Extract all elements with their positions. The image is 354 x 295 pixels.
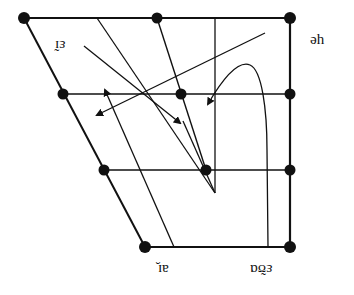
vowel-chart (0, 0, 354, 295)
label-ei: ɛ̃ɪ (55, 37, 65, 54)
label-ai: aɪ̯ (158, 261, 169, 278)
label-eau: ɛ̃ʊɑ (250, 261, 272, 278)
left-edge (24, 18, 145, 247)
label-ue: ɥe (310, 33, 324, 50)
